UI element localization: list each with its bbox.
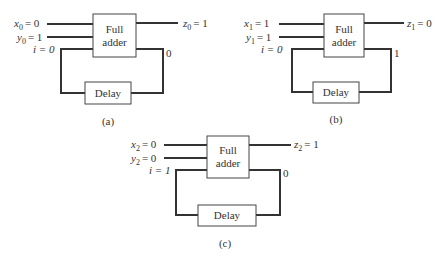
full-adder-label-2: adder [332,36,357,48]
full-adder-label-1: Full [335,23,353,35]
serial-adder-diagram: Full adder Delay x0= 0 y0= 1 i = 0 z0= 1… [0,0,448,258]
full-adder-label-1: Full [106,23,124,35]
x-input-label: x1= 1 [243,17,269,32]
panel-a: Full adder Delay x0= 0 y0= 1 i = 0 z0= 1… [13,14,208,128]
delay-label: Delay [95,87,122,99]
x-input-label: x0= 0 [13,17,40,32]
delay-label: Delay [214,209,241,221]
full-adder-label-1: Full [219,144,237,156]
sum-output-label: z0= 1 [182,17,208,32]
carry-in-label: i = 0 [261,43,283,55]
panel-c: Full adder Delay x2= 0 y2= 0 i = 1 z2= 1… [130,136,319,250]
caption-c: (c) [219,237,232,250]
x-input-label: x2= 0 [130,138,157,153]
panel-b: Full adder Delay x1= 1 y1= 1 i = 0 z1= 0… [243,14,432,126]
carry-out-label: 1 [394,47,400,59]
carry-out-label: 0 [166,47,172,59]
carry-in-label: i = 1 [149,164,170,176]
sum-output-label: z1= 0 [406,17,432,32]
caption-b: (b) [330,113,343,126]
carry-in-label: i = 0 [33,43,55,55]
delay-label: Delay [323,86,350,98]
caption-a: (a) [102,115,115,128]
full-adder-label-2: adder [102,36,127,48]
full-adder-label-2: adder [216,157,241,169]
carry-out-label: 0 [283,167,289,179]
sum-output-label: z2= 1 [293,138,319,153]
